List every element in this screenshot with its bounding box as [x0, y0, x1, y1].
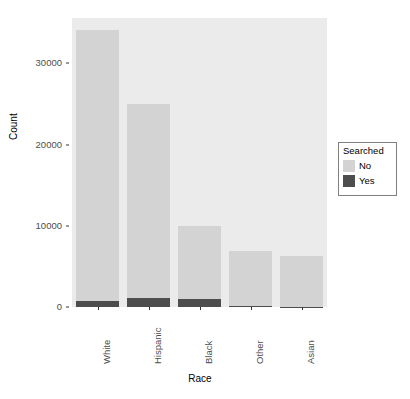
legend-item-no: No: [343, 159, 392, 173]
x-tick-mark: [251, 307, 252, 310]
bar-segment-no: [127, 104, 169, 298]
y-tick-label: 10000: [36, 221, 62, 231]
y-tick-mark: [66, 307, 69, 308]
bar-black: [178, 226, 220, 307]
x-tick-mark: [200, 307, 201, 310]
bar-segment-no: [178, 226, 220, 299]
bar-segment-no: [280, 256, 322, 307]
legend-key-swatch: [343, 175, 355, 187]
y-tick-label: 0: [57, 302, 62, 312]
y-tick-label: 30000: [36, 59, 62, 69]
bar-segment-no: [76, 30, 118, 301]
legend: Searched NoYes: [338, 142, 397, 196]
bar-white: [76, 30, 118, 307]
y-axis-tick-marks: [66, 18, 70, 307]
y-axis-tick-labels: 0100002000030000: [0, 18, 62, 307]
legend-item-yes: Yes: [343, 174, 392, 188]
x-axis-tick-marks: [72, 307, 327, 311]
bar-segment-yes: [127, 298, 169, 307]
bar-other: [229, 251, 271, 307]
x-tick-mark: [98, 307, 99, 310]
x-tick-mark: [149, 307, 150, 310]
y-tick-label: 20000: [36, 140, 62, 150]
plot-area: [72, 18, 327, 307]
bar-segment-yes: [178, 299, 220, 307]
x-axis-tick-labels: WhiteHispanicBlackOtherAsian: [72, 312, 327, 368]
bar-asian: [280, 256, 322, 307]
y-tick-mark: [66, 144, 69, 145]
x-tick-mark: [302, 307, 303, 310]
x-tick-label: Hispanic: [153, 328, 163, 364]
legend-item-label: Yes: [359, 176, 375, 186]
bar-segment-no: [229, 251, 271, 307]
x-tick-label: White: [102, 340, 112, 364]
x-tick-label: Other: [255, 340, 265, 364]
y-tick-mark: [66, 225, 69, 226]
legend-title: Searched: [343, 146, 392, 157]
legend-item-label: No: [359, 161, 371, 171]
legend-items: NoYes: [343, 159, 392, 188]
chart-figure: Count 0100002000030000 WhiteHispanicBlac…: [0, 0, 410, 399]
x-axis-title: Race: [0, 373, 400, 384]
y-tick-mark: [66, 63, 69, 64]
x-tick-label: Asian: [306, 340, 316, 364]
plot-panel: [72, 18, 327, 307]
legend-key-swatch: [343, 160, 355, 172]
x-tick-label: Black: [204, 341, 214, 364]
bar-hispanic: [127, 104, 169, 307]
